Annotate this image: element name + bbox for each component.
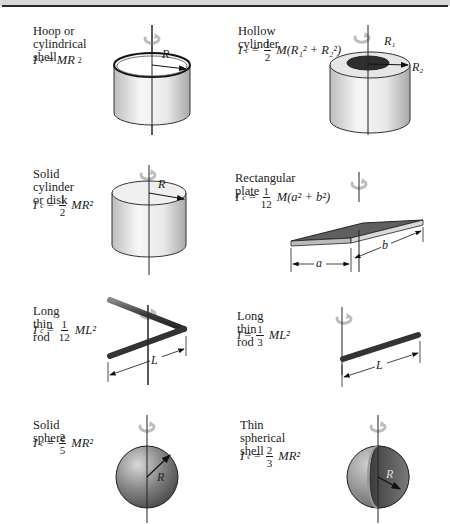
svg-text:R: R xyxy=(157,177,166,191)
svg-text:b: b xyxy=(382,238,388,252)
formula: Ic = 25 MR² xyxy=(33,432,93,455)
svg-text:R: R xyxy=(156,470,165,484)
formula: Ic = MR2 xyxy=(33,53,82,68)
thin-rod-end-icon: L xyxy=(330,305,430,395)
svg-text:R: R xyxy=(385,467,394,481)
svg-text:R₁: R₁ xyxy=(383,34,396,48)
thin-rod-center-icon: L xyxy=(100,300,200,390)
rectangular-plate-icon: a b xyxy=(285,172,425,272)
svg-text:a: a xyxy=(316,256,322,270)
solid-sphere-icon: R xyxy=(110,415,190,524)
svg-text:R: R xyxy=(161,47,170,61)
formula: Ic = 23 MR² xyxy=(240,445,300,468)
solid-cylinder-icon: R xyxy=(100,165,200,275)
formula: Ic = 12 MR² xyxy=(33,194,93,217)
svg-text:R₂: R₂ xyxy=(411,60,424,74)
spherical-shell-icon: R xyxy=(340,415,420,524)
svg-text:L: L xyxy=(375,358,383,372)
svg-text:L: L xyxy=(150,353,158,367)
hollow-cylinder-icon: R₁ R₂ xyxy=(320,25,430,135)
hoop-icon: R xyxy=(100,25,200,135)
top-rule xyxy=(2,5,448,7)
formula: I = 13 ML² xyxy=(237,324,290,347)
formula: Ic = 112 ML² xyxy=(33,319,96,342)
